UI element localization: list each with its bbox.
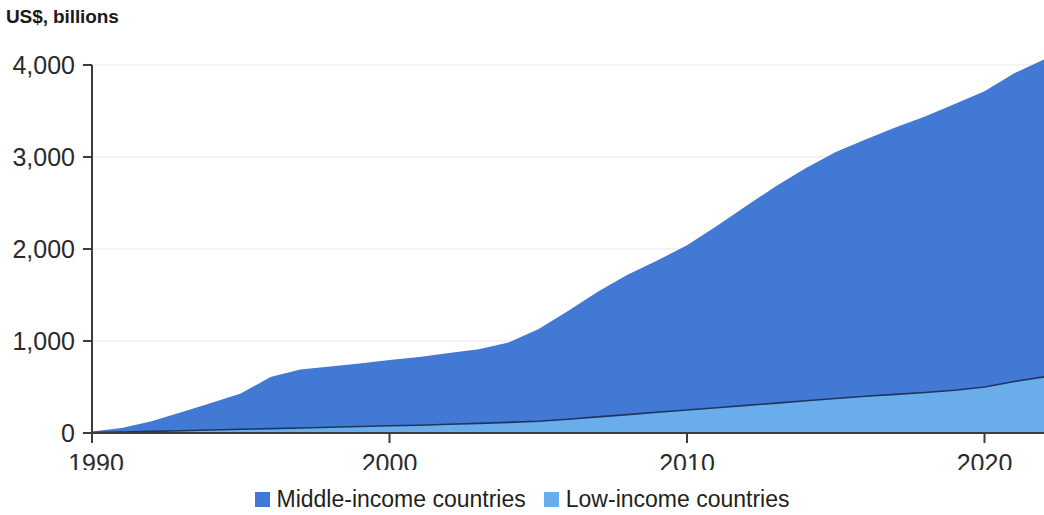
legend-label: Low-income countries xyxy=(566,488,790,511)
y-axis-tick-label: 3,000 xyxy=(12,143,75,171)
x-axis-tick-label: 1990 xyxy=(68,449,124,470)
chart-container: US$, billions 01,0002,0003,0004,000 1990… xyxy=(0,0,1044,515)
y-axis-tick-label: 1,000 xyxy=(12,327,75,355)
series-areas xyxy=(92,59,1044,433)
x-axis-tick-label: 2010 xyxy=(659,449,715,470)
x-axis-ticks: 1990200020102020 xyxy=(68,433,1012,470)
y-axis-tick-label: 0 xyxy=(61,419,75,447)
area-chart-plot: 01,0002,0003,0004,000 1990200020102020 xyxy=(0,0,1044,470)
y-axis-tick-label: 4,000 xyxy=(12,51,75,79)
legend-swatch-icon xyxy=(255,492,270,507)
legend-label: Middle-income countries xyxy=(277,488,526,511)
y-axis-tick-label: 2,000 xyxy=(12,235,75,263)
area-middle-income-countries xyxy=(92,59,1044,432)
x-axis-tick-label: 2000 xyxy=(362,449,418,470)
legend-swatch-icon xyxy=(544,492,559,507)
x-axis-tick-label: 2020 xyxy=(957,449,1013,470)
legend-item[interactable]: Low-income countries xyxy=(544,488,790,511)
chart-legend: Middle-income countriesLow-income countr… xyxy=(0,488,1044,511)
legend-item[interactable]: Middle-income countries xyxy=(255,488,526,511)
y-axis-ticks: 01,0002,0003,0004,000 xyxy=(12,51,92,447)
